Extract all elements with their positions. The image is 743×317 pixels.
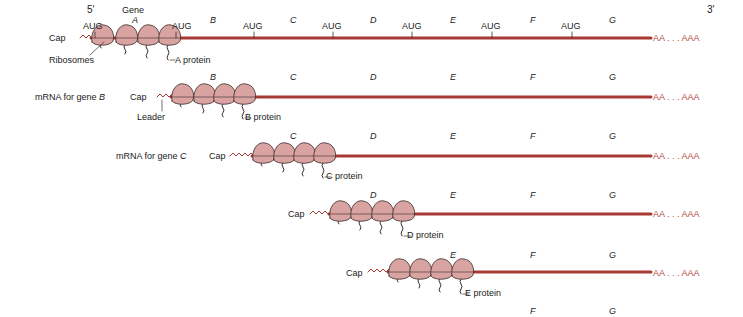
- gene-label-f: F: [530, 15, 536, 25]
- gene-label-e: E: [450, 15, 456, 25]
- leader-zigzag: [230, 153, 254, 156]
- cap-label: Cap: [130, 92, 147, 102]
- cap-label: Cap: [209, 151, 226, 161]
- ribosome: [194, 84, 216, 105]
- gene-label-f: F: [530, 72, 536, 82]
- gene-label-e: E: [450, 131, 456, 141]
- polycistronic-mrna-diagram: 5′ 3′ Gene A B C D E F G AUG AUG AUG AUG…: [0, 0, 743, 317]
- protein-label-d: D protein: [407, 230, 444, 240]
- protein-label-e: E protein: [465, 288, 501, 298]
- polya-tail-label: AA . . . AAA: [653, 92, 700, 102]
- gene-label-c: C: [290, 72, 297, 82]
- ribosome: [314, 143, 336, 164]
- ribosome: [452, 259, 474, 280]
- gene-label-d: D: [370, 131, 377, 141]
- polya-tail-label: AA . . . AAA: [653, 151, 700, 161]
- ribosome: [253, 143, 275, 164]
- gene-label-b: B: [210, 72, 216, 82]
- aug-label: AUG: [481, 21, 501, 31]
- ribosome: [172, 84, 194, 105]
- gene-label-e: E: [450, 190, 456, 200]
- polya-tail-label: AA . . . AAA: [653, 209, 700, 219]
- ribosome: [330, 201, 352, 222]
- gene-label-g: G: [609, 131, 616, 141]
- cap-label: Cap: [288, 209, 305, 219]
- gene-label-f: F: [530, 190, 536, 200]
- mrna-gene-c-label: mRNA for gene C: [116, 151, 187, 161]
- aug-label: AUG: [322, 21, 342, 31]
- ribosome: [214, 84, 236, 105]
- diagram-graphics: [0, 0, 743, 317]
- ribosomes-label: Ribosomes: [49, 55, 94, 65]
- three-prime-label: 3′: [707, 5, 714, 15]
- mrna-gene-b-label: mRNA for gene B: [35, 92, 105, 102]
- gene-label-f: F: [530, 306, 536, 316]
- ribosome: [234, 84, 256, 105]
- cap-label: Cap: [49, 33, 66, 43]
- aug-label: AUG: [561, 21, 581, 31]
- gene-label-c: C: [290, 15, 297, 25]
- gene-header-label: Gene: [122, 5, 144, 15]
- aug-label: AUG: [243, 21, 263, 31]
- gene-label-e: E: [450, 250, 456, 260]
- ribosome: [274, 143, 296, 164]
- gene-label-g: G: [609, 15, 616, 25]
- mrna-name-gene: B: [99, 92, 105, 102]
- aug-label: AUG: [83, 21, 103, 31]
- protein-label-b: B protein: [245, 112, 281, 122]
- ribosome: [410, 259, 432, 280]
- polya-tail-label: AA . . . AAA: [653, 33, 700, 43]
- leader-zigzag: [368, 269, 389, 272]
- ribosome: [389, 259, 411, 280]
- ribosome: [393, 201, 415, 222]
- gene-label-d: D: [370, 190, 377, 200]
- polya-tail-label: AA . . . AAA: [653, 268, 700, 278]
- five-prime-label: 5′: [87, 5, 94, 15]
- mrna-name-prefix: mRNA for gene: [116, 151, 180, 161]
- gene-label-d: D: [370, 72, 377, 82]
- gene-label-g: G: [609, 72, 616, 82]
- ribosome: [116, 25, 138, 46]
- gene-label-f: F: [530, 250, 536, 260]
- aug-label: AUG: [402, 21, 422, 31]
- protein-label-a: A protein: [175, 55, 211, 65]
- aug-label: AUG: [172, 21, 192, 31]
- gene-label-g: G: [609, 250, 616, 260]
- gene-label-d: D: [370, 15, 377, 25]
- mrna-name-gene: C: [180, 151, 187, 161]
- gene-label-b: B: [210, 15, 216, 25]
- ribosome: [294, 143, 316, 164]
- gene-label-g: G: [609, 306, 616, 316]
- gene-label-g: G: [609, 190, 616, 200]
- ribosome: [351, 201, 373, 222]
- ribosome: [431, 259, 453, 280]
- cap-label: Cap: [346, 268, 363, 278]
- ribosome: [138, 25, 160, 46]
- mrna-name-prefix: mRNA for gene: [35, 92, 99, 102]
- gene-label-c: C: [290, 131, 297, 141]
- gene-label-e: E: [450, 72, 456, 82]
- ribosome: [372, 201, 394, 222]
- gene-label-a: A: [132, 15, 138, 25]
- protein-label-c: C protein: [326, 171, 363, 181]
- leader-label: Leader: [137, 112, 165, 122]
- gene-label-f: F: [530, 131, 536, 141]
